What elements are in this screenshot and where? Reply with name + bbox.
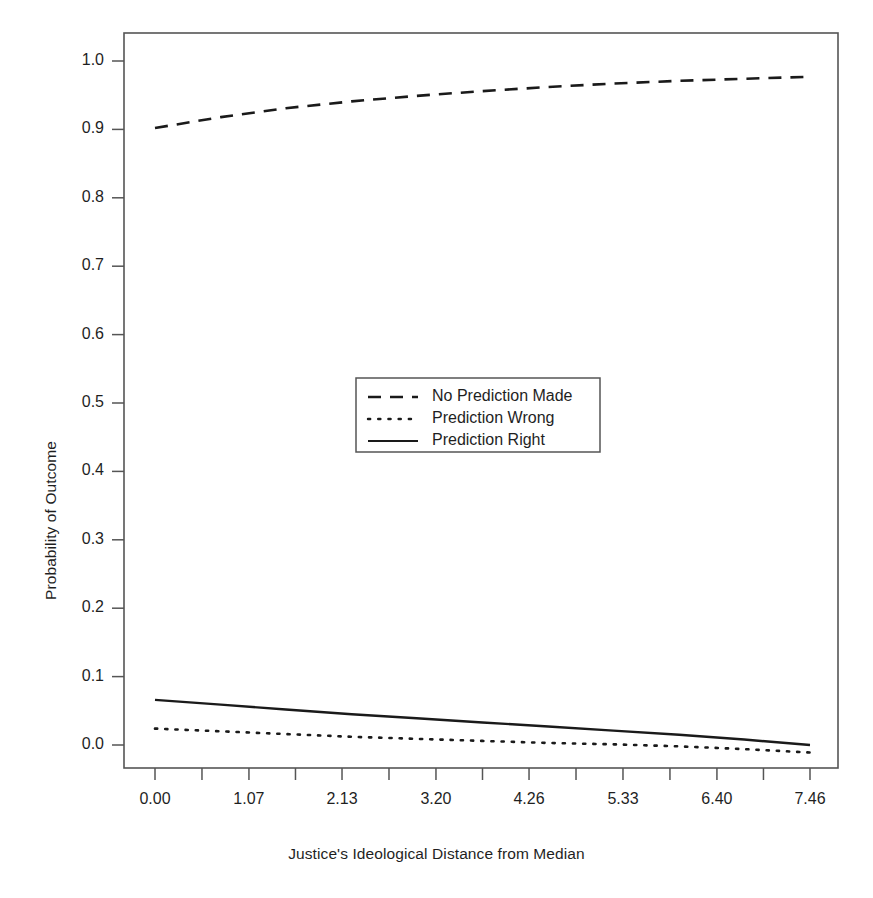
x-tick-label: 5.33: [588, 790, 658, 808]
chart-figure: Justice's Ideological Distance from Medi…: [0, 0, 873, 898]
legend-item-label: No Prediction Made: [432, 387, 573, 405]
legend-item-label: Prediction Wrong: [432, 409, 554, 427]
y-tick-label: 0.4: [44, 461, 104, 479]
y-tick-label: 0.1: [44, 667, 104, 685]
y-tick-label: 0.9: [44, 119, 104, 137]
x-tick-label: 6.40: [682, 790, 752, 808]
x-tick-label: 0.00: [120, 790, 190, 808]
series-line-2: [155, 729, 810, 753]
y-axis-ticks: [112, 61, 124, 745]
x-tick-label: 7.46: [775, 790, 845, 808]
x-tick-label: 3.20: [401, 790, 471, 808]
x-tick-label: 2.13: [307, 790, 377, 808]
x-tick-label: 1.07: [214, 790, 284, 808]
x-axis-ticks: [155, 768, 810, 780]
x-axis-title: Justice's Ideological Distance from Medi…: [0, 845, 873, 863]
y-tick-label: 0.7: [44, 256, 104, 274]
series-line-3: [155, 700, 810, 745]
y-tick-label: 0.3: [44, 530, 104, 548]
y-tick-label: 0.2: [44, 598, 104, 616]
y-tick-label: 0.0: [44, 735, 104, 753]
y-tick-label: 0.5: [44, 393, 104, 411]
x-tick-label: 4.26: [494, 790, 564, 808]
legend-item-label: Prediction Right: [432, 431, 545, 449]
y-tick-label: 0.6: [44, 325, 104, 343]
y-tick-label: 1.0: [44, 51, 104, 69]
y-tick-label: 0.8: [44, 188, 104, 206]
series-line-1: [155, 77, 810, 128]
plot-area: [0, 0, 873, 898]
